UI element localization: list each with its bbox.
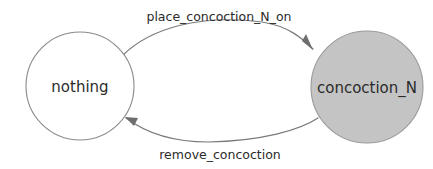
transition-place-concoction-n-on[interactable]	[122, 20, 313, 56]
transition-remove-concoction[interactable]	[125, 117, 318, 142]
state-diagram-canvas: nothing concoction_N place_concoction_N_…	[0, 0, 433, 169]
state-nothing-label: nothing	[51, 78, 108, 96]
state-node-concoction-n[interactable]: concoction_N	[311, 31, 423, 143]
transition-place-arrowhead-icon	[302, 34, 313, 50]
state-diagram-svg: nothing concoction_N place_concoction_N_…	[0, 0, 433, 169]
state-concoction-n-label: concoction_N	[317, 79, 417, 98]
transition-remove-arc	[126, 118, 318, 142]
transition-place-arc	[122, 20, 313, 56]
state-node-nothing[interactable]: nothing	[26, 32, 134, 140]
transition-remove-label: remove_concoction	[159, 147, 281, 162]
transition-place-label: place_concoction_N_on	[146, 9, 291, 24]
